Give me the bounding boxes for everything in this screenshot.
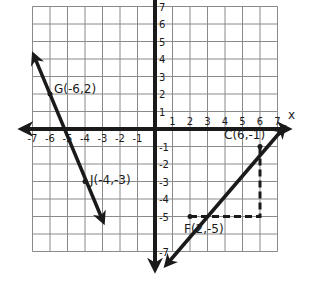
point-label-g: G(-6,2) <box>54 82 96 96</box>
y-tick-label: 5 <box>159 37 165 48</box>
x-tick-label: -3 <box>98 133 108 144</box>
y-tick-label: 7 <box>159 2 165 13</box>
point-j <box>83 179 88 184</box>
y-tick-label: -1 <box>159 142 169 153</box>
point-label-f: F(2,-5) <box>184 222 224 236</box>
point-label-c: C(6,-1) <box>224 128 265 142</box>
y-tick-label: -7 <box>159 247 169 258</box>
x-tick-label: 5 <box>239 116 245 127</box>
x-axis-label: x <box>288 108 295 122</box>
coordinate-plane-diagram: xy -7-6-5-4-3-2-112345677654321-1-2-3-4-… <box>0 0 311 296</box>
y-tick-label: 6 <box>159 19 165 30</box>
x-tick-label: -1 <box>133 133 143 144</box>
x-tick-label: 6 <box>257 116 263 127</box>
x-tick-label: 4 <box>222 116 228 127</box>
x-tick-label: 3 <box>204 116 210 127</box>
coordinate-plane: xy -7-6-5-4-3-2-112345677654321-1-2-3-4-… <box>0 0 311 296</box>
x-tick-label: -4 <box>80 133 90 144</box>
x-tick-label: -6 <box>45 133 55 144</box>
point-c <box>258 144 263 149</box>
x-tick-label: -2 <box>115 133 125 144</box>
y-tick-label: 2 <box>159 89 165 100</box>
x-tick-label: 1 <box>169 116 175 127</box>
point-f <box>188 214 193 219</box>
y-tick-label: 4 <box>159 54 165 65</box>
x-tick-label: -7 <box>28 133 38 144</box>
x-tick-label: 7 <box>274 116 280 127</box>
y-tick-label: -2 <box>159 159 169 170</box>
x-tick-label: 2 <box>187 116 193 127</box>
point-g <box>48 92 53 97</box>
y-tick-label: 3 <box>159 72 165 83</box>
y-tick-label: 1 <box>159 107 165 118</box>
y-tick-label: -5 <box>159 212 169 223</box>
y-tick-label: -4 <box>159 194 169 205</box>
point-label-j: J(-4,-3) <box>89 173 131 187</box>
y-tick-label: -3 <box>159 177 169 188</box>
